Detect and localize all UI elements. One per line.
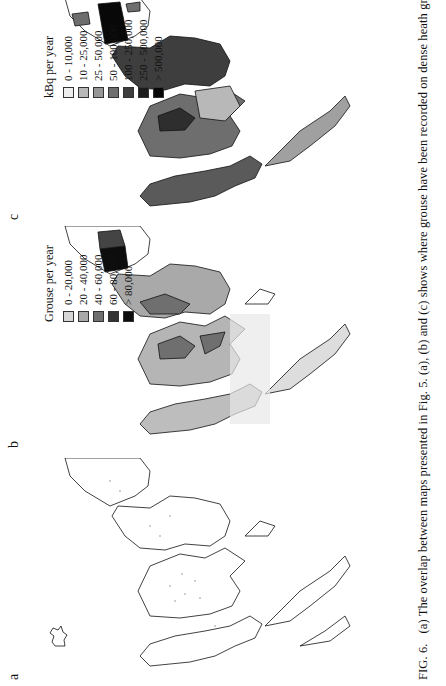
legend-label: 0 - 10,000 xyxy=(61,36,76,81)
figure-caption: FIG. 6.(a) The overlap between maps pres… xyxy=(416,0,431,680)
legend-swatch xyxy=(108,87,119,98)
legend-row: 50 - 100,000 xyxy=(106,20,121,98)
legend-label: 40 - 60,000 xyxy=(91,255,106,305)
legend-row: 40 - 60,000 xyxy=(91,245,106,322)
legend-row: 60 - 80,000 xyxy=(106,245,121,322)
legend-swatch xyxy=(93,311,104,322)
legend-row: > 80,000 xyxy=(121,245,136,322)
legend-title: kBq per year xyxy=(42,20,57,98)
legend-row: 20 - 40,000 xyxy=(76,245,91,322)
legend-swatch xyxy=(93,87,104,98)
legend-swatch xyxy=(63,87,74,98)
panel-a: a xyxy=(0,458,410,686)
legend-row: 25 - 50,000 xyxy=(91,20,106,98)
legend-swatch xyxy=(108,311,119,322)
legend-row: > 500,000 xyxy=(151,20,166,98)
panel-b: b Grouse per year 0 - 20,000 xyxy=(0,226,410,454)
caption-label: FIG. 6. xyxy=(416,644,430,680)
legend-swatch xyxy=(138,87,149,98)
legend-kbq: kBq per year 0 - 10,000 10 - 25,000 25 -… xyxy=(42,20,166,98)
legend-label: 250 - 500,000 xyxy=(136,20,151,81)
legend-label: 50 - 100,000 xyxy=(106,25,121,81)
legend-grouse: Grouse per year 0 - 20,000 20 - 40,000 4… xyxy=(42,245,136,322)
legend-swatch xyxy=(153,87,164,98)
map-outline-a xyxy=(0,458,410,686)
legend-swatch xyxy=(78,87,89,98)
legend-label: > 80,000 xyxy=(121,266,136,305)
legend-label: 25 - 50,000 xyxy=(91,31,106,81)
legend-swatch xyxy=(123,311,134,322)
legend-swatch xyxy=(78,311,89,322)
legend-swatch xyxy=(63,311,74,322)
legend-row: 0 - 10,000 xyxy=(61,20,76,98)
legend-row: 0 - 20,000 xyxy=(61,245,76,322)
legend-title: Grouse per year xyxy=(42,245,57,322)
figure-page: a b xyxy=(0,0,446,686)
caption-text: (a) The overlap between maps presented i… xyxy=(416,0,430,634)
legend-label: 10 - 25,000 xyxy=(76,31,91,81)
legend-label: 60 - 80,000 xyxy=(106,255,121,305)
legend-swatch xyxy=(123,87,134,98)
legend-label: 20 - 40,000 xyxy=(76,255,91,305)
legend-label: 0 - 20,000 xyxy=(61,260,76,305)
legend-row: 100 - 250,000 xyxy=(121,20,136,98)
legend-label: 100 - 250,000 xyxy=(121,20,136,81)
legend-row: 250 - 500,000 xyxy=(136,20,151,98)
legend-row: 10 - 25,000 xyxy=(76,20,91,98)
legend-label: > 500,000 xyxy=(151,36,166,81)
panel-c: c kBq per year 0 - 10,000 xyxy=(0,0,410,226)
